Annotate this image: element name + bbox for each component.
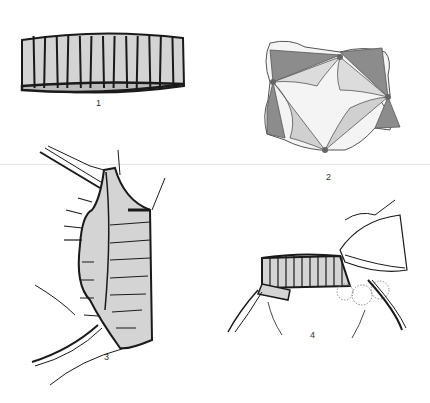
band-segment-seam — [149, 36, 150, 88]
commissure-dot — [322, 147, 328, 153]
panel-2-valve-topview — [265, 41, 400, 153]
band-segment-seam — [103, 36, 104, 88]
panel-1-label: 1 — [96, 98, 101, 108]
panel-4-label: 4 — [310, 330, 315, 340]
commissure-dot — [337, 54, 343, 60]
panel-3-band-in-tissue — [32, 146, 165, 385]
band-segment-seam — [90, 36, 91, 88]
panel-1-segmented-band — [22, 33, 184, 92]
commissure-dot — [385, 94, 391, 100]
band-segment-seam — [44, 36, 45, 88]
band-segment-seam — [80, 36, 81, 88]
panel-4-band-positioning — [228, 200, 407, 338]
band-segment-seam — [57, 36, 58, 88]
band-segment-seam — [34, 36, 35, 88]
band-segment-seam — [160, 36, 161, 88]
panel-2-label: 2 — [326, 172, 331, 182]
commissure-dot — [270, 79, 276, 85]
band-segment-seam — [67, 36, 68, 88]
band-segment-seam — [114, 36, 115, 88]
band-segment-seam — [126, 36, 127, 88]
panel-3-label: 3 — [104, 352, 109, 362]
illustration-canvas — [0, 0, 430, 403]
band-segment-seam — [172, 36, 173, 88]
band-segment-seam — [137, 36, 138, 88]
